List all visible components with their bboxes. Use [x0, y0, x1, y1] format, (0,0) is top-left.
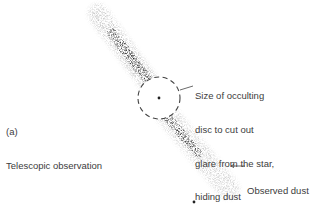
annotation-line: Size of occulting [195, 90, 274, 101]
observed-dust-annotation: Observed dust surrounding star seen almo… [247, 163, 316, 220]
panel-caption: (a) Telescopic observation [6, 104, 102, 194]
central-star-icon [158, 97, 161, 100]
annotation-line: surrounding star [247, 219, 316, 220]
upper-dust-streak [98, 14, 150, 84]
telescopic-observation-figure: (a) Telescopic observation Size of occul… [0, 0, 328, 220]
disc-leader-line [180, 86, 193, 90]
annotation-line: disc to cut out [195, 124, 274, 135]
panel-label: (a) [6, 126, 102, 137]
panel-title: Telescopic observation [6, 160, 102, 171]
annotation-line: Observed dust [247, 185, 316, 196]
